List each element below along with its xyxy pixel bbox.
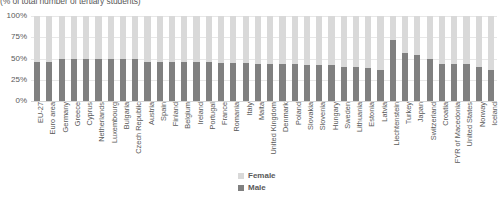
legend-item-male[interactable]: Male	[238, 183, 276, 193]
bar-stack	[341, 16, 347, 101]
bar-column[interactable]	[141, 16, 153, 101]
bar-column[interactable]	[325, 16, 337, 101]
bar-column[interactable]	[485, 16, 497, 101]
x-axis-label-slot: Finland	[166, 101, 178, 163]
x-axis-label-slot: Japan	[411, 101, 423, 163]
bar-stack	[328, 16, 334, 101]
bar-segment-female	[267, 16, 273, 64]
bar-stack	[451, 16, 457, 101]
bar-column[interactable]	[117, 16, 129, 101]
bar-column[interactable]	[399, 16, 411, 101]
bar-stack	[95, 16, 101, 101]
bar-column[interactable]	[129, 16, 141, 101]
bar-column[interactable]	[448, 16, 460, 101]
bar-segment-male	[304, 65, 310, 101]
bar-column[interactable]	[362, 16, 374, 101]
x-axis-label-slot: United States	[460, 101, 472, 163]
bar-segment-male	[71, 59, 77, 102]
bar-segment-female	[341, 16, 347, 67]
bar-column[interactable]	[338, 16, 350, 101]
bar-stack	[218, 16, 224, 101]
bar-stack	[108, 16, 114, 101]
bar-column[interactable]	[43, 16, 55, 101]
bar-column[interactable]	[411, 16, 423, 101]
bar-column[interactable]	[424, 16, 436, 101]
bar-segment-female	[390, 16, 396, 40]
bar-segment-female	[316, 16, 322, 65]
bar-segment-female	[46, 16, 52, 62]
bar-segment-male	[95, 59, 101, 102]
bar-segment-female	[414, 16, 420, 55]
bar-column[interactable]	[252, 16, 264, 101]
x-axis-label-slot: Slovenia	[313, 101, 325, 163]
bar-column[interactable]	[276, 16, 288, 101]
bar-column[interactable]	[68, 16, 80, 101]
bar-column[interactable]	[227, 16, 239, 101]
bar-segment-female	[377, 16, 383, 70]
bar-column[interactable]	[301, 16, 313, 101]
bar-column[interactable]	[105, 16, 117, 101]
bar-column[interactable]	[387, 16, 399, 101]
legend-item-female[interactable]: Female	[238, 171, 276, 181]
bar-segment-female	[463, 16, 469, 64]
bar-column[interactable]	[374, 16, 386, 101]
x-axis-label-slot: Switzerland	[424, 101, 436, 163]
bar-column[interactable]	[56, 16, 68, 101]
bar-segment-female	[353, 16, 359, 67]
bar-segment-female	[218, 16, 224, 63]
bar-stack	[144, 16, 150, 101]
bar-segment-female	[169, 16, 175, 62]
plot-area	[31, 16, 497, 101]
bar-column[interactable]	[80, 16, 92, 101]
x-axis-label-slot: Luxembourg	[105, 101, 117, 163]
x-axis-label-slot: Euro area	[43, 101, 55, 163]
bar-segment-male	[463, 64, 469, 101]
bar-column[interactable]	[350, 16, 362, 101]
bar-stack	[169, 16, 175, 101]
bar-segment-female	[304, 16, 310, 65]
bar-segment-male	[427, 59, 433, 102]
bar-column[interactable]	[154, 16, 166, 101]
bar-column[interactable]	[289, 16, 301, 101]
bar-column[interactable]	[190, 16, 202, 101]
bar-column[interactable]	[264, 16, 276, 101]
bar-segment-female	[71, 16, 77, 59]
bar-column[interactable]	[166, 16, 178, 101]
bar-column[interactable]	[31, 16, 43, 101]
bar-column[interactable]	[203, 16, 215, 101]
bar-segment-female	[157, 16, 163, 62]
bar-column[interactable]	[92, 16, 104, 101]
bar-segment-female	[365, 16, 371, 68]
bar-segment-male	[46, 62, 52, 101]
x-axis-label-slot: Latvia	[374, 101, 386, 163]
bar-column[interactable]	[473, 16, 485, 101]
bar-column[interactable]	[178, 16, 190, 101]
bar-series-group	[31, 16, 497, 101]
x-axis-label-slot: Cyprus	[80, 101, 92, 163]
bar-segment-male	[279, 64, 285, 101]
bar-stack	[316, 16, 322, 101]
bar-segment-female	[193, 16, 199, 62]
bar-stack	[83, 16, 89, 101]
bar-stack	[230, 16, 236, 101]
chart-legend: Female Male	[238, 171, 276, 193]
x-axis-label-slot: Croatia	[436, 101, 448, 163]
bar-stack	[390, 16, 396, 101]
bar-segment-male	[230, 63, 236, 101]
x-axis-label-slot: Iceland	[485, 101, 497, 163]
x-axis-label-slot: Czech Republic	[129, 101, 141, 163]
x-axis-label-slot: EU-27	[31, 101, 43, 163]
bar-segment-male	[316, 65, 322, 101]
bar-column[interactable]	[240, 16, 252, 101]
bar-column[interactable]	[215, 16, 227, 101]
x-axis-label-slot: Malta	[252, 101, 264, 163]
bar-column[interactable]	[436, 16, 448, 101]
bar-segment-male	[292, 64, 298, 101]
y-axis-tick-label: 75%	[0, 33, 27, 41]
bar-column[interactable]	[313, 16, 325, 101]
bar-segment-male	[157, 62, 163, 101]
bar-segment-male	[59, 59, 65, 102]
bar-stack	[71, 16, 77, 101]
bar-column[interactable]	[460, 16, 472, 101]
bar-segment-male	[365, 68, 371, 101]
